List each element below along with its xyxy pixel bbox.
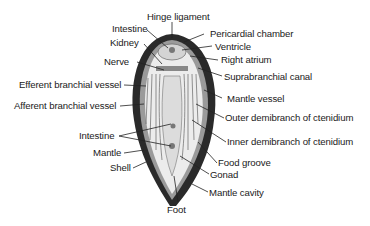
label-outer-demibranch: Outer demibranch of ctenidium — [225, 113, 353, 123]
label-mantle: Mantle — [93, 148, 121, 158]
label-gonad: Gonad — [210, 170, 238, 180]
label-intestine-bottom: Intestine — [79, 131, 114, 141]
label-mantle-cavity: Mantle cavity — [209, 188, 264, 198]
label-ventricle: Ventricle — [215, 42, 251, 52]
label-suprabranchial-canal: Suprabranchial canal — [224, 72, 312, 82]
label-mantle-vessel: Mantle vessel — [227, 94, 284, 104]
label-inner-demibranch: Inner demibranch of ctenidium — [227, 137, 353, 147]
bivalve-diagram: Hinge ligament Pericardial chamber Intes… — [0, 0, 370, 226]
label-food-groove: Food groove — [218, 158, 271, 168]
label-efferent-branchial-vessel: Efferent branchial vessel — [19, 80, 121, 90]
label-nerve: Nerve — [104, 57, 129, 67]
label-foot: Foot — [167, 205, 186, 215]
label-right-atrium: Right atrium — [221, 55, 272, 65]
label-intestine-top: Intestine — [112, 24, 147, 34]
label-shell: Shell — [110, 163, 131, 173]
label-pericardial-chamber: Pericardial chamber — [210, 29, 293, 39]
label-afferent-branchial-vessel: Afferent branchial vessel — [14, 101, 116, 111]
label-kidney: Kidney — [110, 38, 139, 48]
label-hinge-ligament: Hinge ligament — [147, 12, 210, 22]
